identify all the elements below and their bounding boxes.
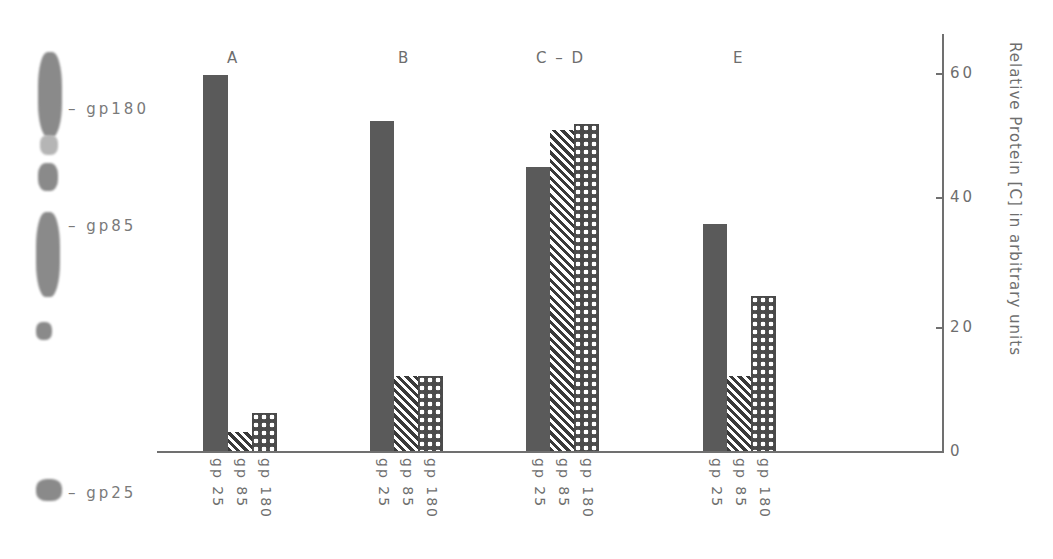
x-label-b-gp85: gp 85	[400, 458, 416, 508]
bar-b-gp25	[370, 121, 394, 451]
y-axis-line	[942, 34, 944, 453]
bar-e-gp85	[727, 376, 751, 451]
y-tick-60	[936, 73, 944, 75]
x-label-e-gp85: gp 85	[733, 458, 749, 508]
bar-cd-gp180	[574, 124, 599, 451]
group-label-e: E	[733, 49, 744, 67]
y-tick-20	[936, 327, 944, 329]
y-tick-label-20: 20	[950, 318, 975, 336]
x-label-e-gp180: gp 180	[757, 458, 773, 519]
x-label-e-gp25: gp 25	[709, 458, 725, 508]
x-label-b-gp25: gp 25	[376, 458, 392, 508]
figure: – gp180 – gp85 – gp25 A B C – D E 60 40 …	[0, 0, 1053, 559]
gel-label-gp25-text: gp25	[86, 484, 136, 502]
x-label-a-gp25: gp 25	[210, 458, 226, 508]
gel-label-gp180: – gp180	[68, 100, 149, 118]
bar-e-gp25	[703, 224, 727, 451]
bar-b-gp85	[394, 376, 418, 451]
x-label-cd-gp180: gp 180	[580, 458, 596, 519]
y-tick-label-60: 60	[950, 64, 975, 82]
gel-band-smear	[40, 135, 58, 155]
group-label-c-d: C – D	[536, 49, 585, 67]
gel-label-gp180-text: gp180	[86, 100, 149, 118]
bar-a-gp180	[252, 413, 277, 451]
y-axis-title: Relative Protein [C] in arbitrary units	[1006, 42, 1024, 356]
gel-band-mid	[38, 163, 58, 191]
y-tick-label-40: 40	[950, 188, 975, 206]
bar-a-gp85	[228, 432, 252, 451]
gel-band-gp25	[36, 479, 62, 501]
gel-band-top	[38, 52, 62, 137]
gel-label-gp25: – gp25	[68, 484, 136, 502]
y-tick-label-0: 0	[950, 442, 963, 460]
x-label-b-gp180: gp 180	[424, 458, 440, 519]
bar-b-gp180	[418, 376, 443, 451]
gel-label-gp85: – gp85	[68, 217, 136, 235]
bar-a-gp25	[203, 75, 228, 451]
x-axis-line	[157, 451, 943, 453]
gel-label-gp85-text: gp85	[86, 217, 136, 235]
bar-cd-gp25	[526, 167, 550, 451]
x-label-a-gp85: gp 85	[234, 458, 250, 508]
gel-band-small	[36, 322, 52, 340]
bar-e-gp180	[751, 296, 776, 451]
bar-cd-gp85	[550, 130, 574, 451]
x-label-cd-gp25: gp 25	[532, 458, 548, 508]
group-label-a: A	[227, 49, 239, 67]
x-label-a-gp180: gp 180	[258, 458, 274, 519]
group-label-b: B	[398, 49, 410, 67]
x-label-cd-gp85: gp 85	[556, 458, 572, 508]
gel-band-gp85	[36, 212, 60, 297]
y-tick-40	[936, 197, 944, 199]
